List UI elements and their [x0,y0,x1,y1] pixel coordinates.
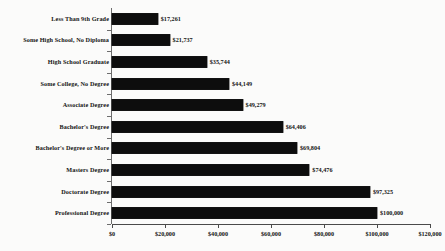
category-label: High School Graduate [48,59,109,65]
value-axis-tick [377,224,378,228]
bar [112,143,297,154]
bar-row: Bachelor's Degree$64,406 [0,116,445,138]
value-axis-tick-label: $0 [109,231,115,237]
category-label: Bachelor's Degree or More [36,145,109,151]
bar-row: Associate Degree$49,279 [0,94,445,116]
bar-row: Masters Degree$74,476 [0,159,445,181]
value-axis-tick [165,224,166,228]
category-label: Less Than 9th Grade [51,16,109,22]
bar-row: Doctorate Degree$97,325 [0,181,445,203]
bar-value-label: $74,476 [312,167,332,173]
category-label: Bachelor's Degree [59,124,109,130]
value-axis-tick [271,224,272,228]
value-axis-tick [430,224,431,228]
value-axis-tick-label: $60,000 [261,231,281,237]
bar [112,35,170,46]
value-axis-tick-label: $80,000 [314,231,334,237]
bar-row: Less Than 9th Grade$17,261 [0,8,445,30]
bar-value-label: $44,149 [232,80,252,86]
bar [112,208,377,219]
value-axis-tick-label: $120,000 [418,231,441,237]
bar [112,100,243,111]
bar-value-label: $100,000 [380,210,403,216]
bar-chart-plot-area: Less Than 9th Grade$17,261Some High Scho… [0,0,445,251]
bar [112,78,229,89]
bar-row: Some High School, No Diploma$21,737 [0,30,445,52]
value-axis-tick-label: $40,000 [208,231,228,237]
category-axis-tick [107,224,111,225]
bar-value-label: $69,804 [300,145,320,151]
bar-value-label: $64,406 [286,124,306,130]
bar [112,56,207,67]
value-axis-tick [218,224,219,228]
bar-row: High School Graduate$35,744 [0,51,445,73]
bar-value-label: $35,744 [210,59,230,65]
bar [112,13,158,24]
bar-value-label: $97,325 [373,188,393,194]
bar-value-label: $21,737 [173,37,193,43]
bar-value-label: $17,261 [161,16,181,22]
value-axis-tick-label: $100,000 [365,231,388,237]
bar [112,164,309,175]
bar [112,186,370,197]
bar [112,121,283,132]
category-label: Doctorate Degree [61,188,109,194]
bar-value-label: $49,279 [246,102,266,108]
bar-row: Bachelor's Degree or More$69,804 [0,138,445,160]
category-label: Some College, No Degree [40,80,109,86]
chart-container: Less Than 9th Grade$17,261Some High Scho… [0,0,445,251]
category-label: Professional Degree [55,210,109,216]
category-label: Associate Degree [63,102,109,108]
value-axis-tick-label: $20,000 [155,231,175,237]
category-label: Masters Degree [66,167,109,173]
value-axis-tick [112,224,113,228]
bar-row: Professional Degree$100,000 [0,202,445,224]
value-axis-tick [324,224,325,228]
category-label: Some High School, No Diploma [23,37,109,43]
bar-row: Some College, No Degree$44,149 [0,73,445,95]
